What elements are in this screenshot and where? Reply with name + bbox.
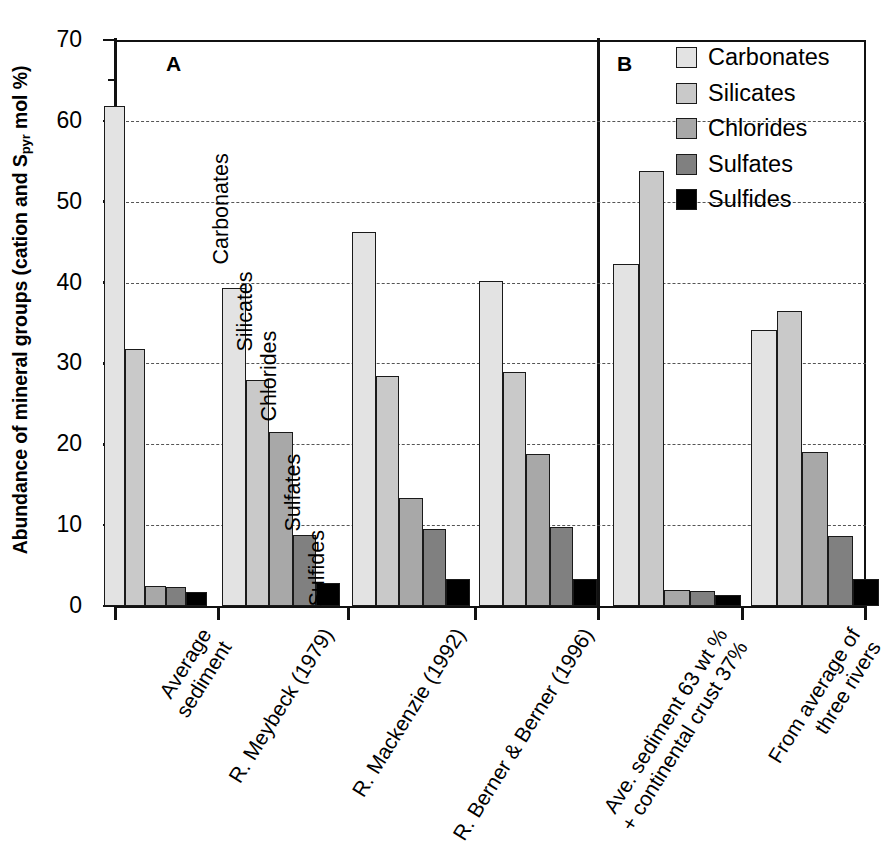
y-tick-label-40: 40 [0,271,82,294]
legend-swatch-icon [676,47,697,68]
legend-item: Carbonates [676,40,866,76]
x-tick-2 [347,606,350,620]
legend-label: Chlorides [708,117,807,141]
legend-label: Silicates [708,82,796,106]
y-axis-title-sub: pyr [18,134,33,154]
x-tick-4 [597,606,600,620]
bar [639,171,665,606]
bar [125,349,146,606]
legend-item: Sulfates [676,147,866,183]
panel-divider [597,38,600,608]
x-tick-1 [217,606,220,620]
y-tick-label-20: 20 [0,432,82,455]
bar [423,529,447,606]
legend-label: Sulfides [708,188,792,212]
y-tick-label-70: 70 [0,28,82,51]
x-tick-3 [474,606,477,620]
bar [828,536,854,606]
y-tick-label-0: 0 [0,594,82,617]
bar [503,372,527,606]
x-tick-0 [114,606,117,620]
panel-label-a: A [166,52,181,76]
legend-swatch-icon [676,83,697,104]
panel-label-b: B [617,52,632,76]
y-tick-label-30: 30 [0,351,82,374]
bar [751,330,777,606]
annotation-sulfates: Sulfates [283,454,305,532]
y-tick-label-50: 50 [0,190,82,213]
bar [853,579,879,606]
y-tick-label-10: 10 [0,513,82,536]
bar [145,586,166,606]
legend-swatch-icon [676,118,697,139]
annotation-carbonates: Carbonates [211,153,233,264]
annotation-sulfides: Sulfides [307,530,329,607]
y-tick-minor-65 [108,79,116,81]
annotation-chlorides: Chlorides [259,331,281,422]
x-tick-5 [741,606,744,620]
bar [715,595,741,606]
legend-swatch-icon [676,154,697,175]
bar [399,498,423,606]
y-tick-label-60: 60 [0,109,82,132]
legend-item: Sulfides [676,182,866,218]
bar [446,579,470,606]
legend: CarbonatesSilicatesChloridesSulfatesSulf… [676,40,866,218]
bar [802,452,828,606]
bar [550,527,574,606]
legend-swatch-icon [676,189,697,210]
bar [352,232,376,606]
bar [166,587,187,606]
bar [526,454,550,606]
bar [186,592,207,606]
bar [104,106,125,606]
legend-item: Silicates [676,76,866,112]
bar [664,590,690,606]
legend-item: Chlorides [676,111,866,147]
annotation-silicates: Silicates [235,271,257,351]
bar [777,311,803,606]
bar [690,591,716,606]
bar [613,264,639,606]
legend-label: Carbonates [708,46,830,70]
y-tick-70 [103,39,116,42]
x-tick-6 [864,606,867,620]
bar [479,281,503,606]
legend-label: Sulfates [708,153,793,177]
bar [376,376,400,606]
bar [573,579,597,606]
